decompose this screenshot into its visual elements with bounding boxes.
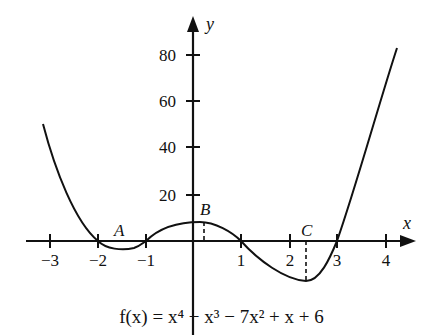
x-tick-label: 2 xyxy=(286,251,295,270)
x-axis-arrow-icon xyxy=(400,235,416,247)
x-tick-label: −3 xyxy=(41,251,59,270)
point-c-label: C xyxy=(301,221,313,240)
point-b-label: B xyxy=(200,200,211,219)
y-axis-label: y xyxy=(204,14,214,34)
y-tick-label: 60 xyxy=(159,92,176,111)
point-a-label: A xyxy=(113,221,125,240)
y-tick-label: 20 xyxy=(159,186,176,205)
x-tick-label: 1 xyxy=(237,251,246,270)
function-graph: −3 −2 −1 1 2 3 4 20 40 60 80 y x A B C xyxy=(0,0,443,335)
y-axis-arrow-icon xyxy=(187,16,199,32)
x-tick-label: −1 xyxy=(137,251,155,270)
y-tick-label: 40 xyxy=(159,138,176,157)
x-tick-label: −2 xyxy=(89,251,107,270)
function-curve xyxy=(43,48,397,281)
x-axis-label: x xyxy=(402,213,411,233)
y-tick-label: 80 xyxy=(159,46,176,65)
x-tick-label: 4 xyxy=(382,251,391,270)
x-tick-label: 3 xyxy=(333,251,342,270)
function-caption: f(x) = x⁴ − x³ − 7x² + x + 6 xyxy=(0,306,443,328)
